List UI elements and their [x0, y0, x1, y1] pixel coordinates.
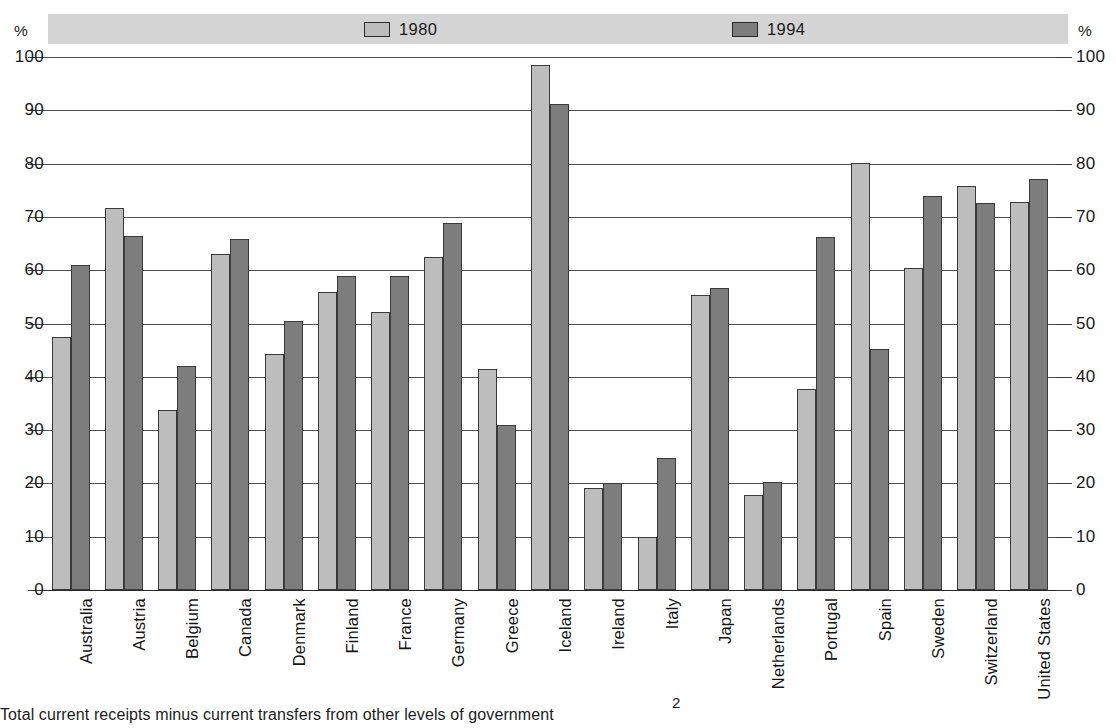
y-tick-mark-right — [1056, 110, 1072, 111]
bar-group — [896, 57, 949, 590]
category-label: Germany — [450, 598, 467, 667]
bar-1994 — [763, 482, 782, 590]
bar-1994 — [337, 276, 356, 590]
bar-1980 — [158, 410, 177, 590]
y-tick-label-left: 60 — [24, 261, 44, 278]
y-tick-label-left: 30 — [24, 421, 44, 438]
y-tick-label-right: 40 — [1076, 368, 1096, 385]
category-label: Greece — [504, 598, 521, 653]
bar-1980 — [52, 337, 71, 590]
y-tick-label-right: 0 — [1076, 581, 1086, 598]
y-tick-label-right: 90 — [1076, 101, 1096, 118]
bar-group — [843, 57, 896, 590]
x-axis-baseline — [44, 590, 1056, 591]
bar-1980 — [371, 312, 390, 590]
chart-legend: 1980 1994 — [48, 14, 1068, 44]
footnote-marker: 2 — [672, 694, 680, 711]
bar-1980 — [105, 208, 124, 590]
footnote-text: Total current receipts minus current tra… — [0, 706, 554, 724]
bar-1980 — [478, 369, 497, 590]
category-label: Switzerland — [983, 598, 1000, 686]
bar-group — [97, 57, 150, 590]
bar-group — [523, 57, 576, 590]
bar-1980 — [904, 268, 923, 590]
bar-1980 — [424, 257, 443, 590]
y-tick-label-right: 20 — [1076, 474, 1096, 491]
y-tick-mark-right — [1056, 57, 1072, 58]
bar-1980 — [851, 163, 870, 590]
category-label: Spain — [877, 598, 894, 641]
y-tick-label-left: 0 — [34, 581, 44, 598]
bar-group — [364, 57, 417, 590]
category-label: Iceland — [557, 598, 574, 653]
y-tick-mark-right — [1056, 164, 1072, 165]
bar-group — [310, 57, 363, 590]
bar-1980 — [691, 295, 710, 590]
category-label: United States — [1036, 598, 1053, 700]
y-tick-mark-right — [1056, 324, 1072, 325]
bar-1980 — [584, 488, 603, 590]
category-label: Austria — [131, 598, 148, 651]
y-tick-mark-right — [1056, 377, 1072, 378]
y-axis-unit-left: % — [14, 22, 28, 40]
category-label: Sweden — [930, 598, 947, 659]
y-tick-label-right: 10 — [1076, 528, 1096, 545]
bar-group — [151, 57, 204, 590]
y-tick-label-right: 70 — [1076, 208, 1096, 225]
legend-swatch-1980 — [364, 22, 390, 37]
y-tick-label-left: 80 — [24, 155, 44, 172]
bar-1994 — [443, 223, 462, 590]
legend-label-1980: 1980 — [399, 21, 437, 38]
category-label: Italy — [664, 598, 681, 629]
legend-label-1994: 1994 — [767, 21, 805, 38]
bar-1980 — [265, 354, 284, 590]
bar-1994 — [230, 239, 249, 590]
bar-1994 — [124, 236, 143, 590]
y-tick-label-left: 40 — [24, 368, 44, 385]
bar-1994 — [923, 196, 942, 590]
bar-1994 — [710, 288, 729, 590]
y-tick-label-left: 50 — [24, 315, 44, 332]
bar-1994 — [550, 104, 569, 590]
bar-1980 — [318, 292, 337, 590]
category-label: Ireland — [610, 598, 627, 650]
legend-swatch-1994 — [732, 22, 758, 37]
category-label: Belgium — [184, 598, 201, 659]
plot-area — [44, 57, 1056, 590]
bar-1994 — [816, 237, 835, 590]
category-label: Finland — [344, 598, 361, 654]
y-tick-mark-right — [1056, 430, 1072, 431]
category-label: Netherlands — [770, 598, 787, 689]
y-tick-mark-right — [1056, 217, 1072, 218]
category-label: Portugal — [823, 598, 840, 661]
y-tick-label-left: 90 — [24, 101, 44, 118]
y-tick-label-left: 10 — [24, 528, 44, 545]
y-axis-unit-right: % — [1078, 22, 1092, 40]
bar-group — [683, 57, 736, 590]
y-tick-label-right: 80 — [1076, 155, 1096, 172]
bar-group — [44, 57, 97, 590]
bar-1980 — [638, 537, 657, 590]
bar-1994 — [284, 321, 303, 590]
bar-group — [577, 57, 630, 590]
y-tick-mark-right — [1056, 537, 1072, 538]
bar-1994 — [870, 349, 889, 590]
bar-group — [790, 57, 843, 590]
bar-group — [1003, 57, 1056, 590]
bar-group — [470, 57, 523, 590]
legend-item-1994: 1994 — [732, 19, 805, 39]
y-tick-label-left: 70 — [24, 208, 44, 225]
y-tick-mark-right — [1056, 483, 1072, 484]
y-tick-label-right: 30 — [1076, 421, 1096, 438]
category-label: Australia — [78, 598, 95, 664]
bar-1980 — [797, 389, 816, 590]
bar-chart-figure: 1980 1994 % % 10010090908080707060605050… — [0, 0, 1116, 728]
y-tick-label-right: 100 — [1076, 48, 1105, 65]
y-tick-label-right: 50 — [1076, 315, 1096, 332]
y-tick-mark-right — [1056, 590, 1072, 591]
bar-1980 — [1010, 202, 1029, 590]
bar-group — [257, 57, 310, 590]
y-tick-label-right: 60 — [1076, 261, 1096, 278]
bar-group — [630, 57, 683, 590]
bar-1980 — [744, 495, 763, 590]
